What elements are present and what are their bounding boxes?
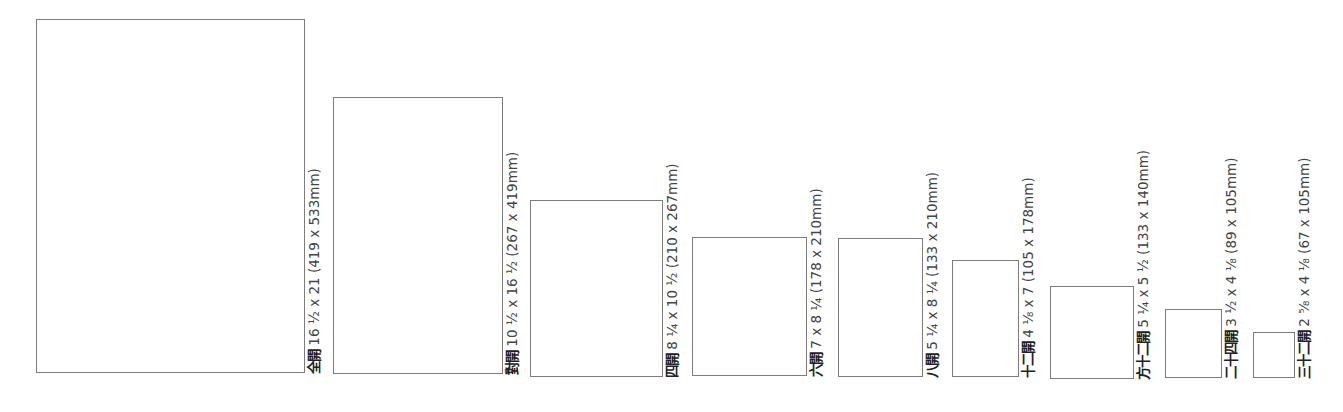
sheet-inches: 7 x 8 ¼ xyxy=(808,298,824,349)
sheet-mm: (133 x 140mm) xyxy=(1135,150,1151,255)
sheet-name: 對開 xyxy=(504,351,520,375)
sheet-inches: 2 ⅝ x 4 ⅛ xyxy=(1296,258,1312,327)
sheet-rect-fangshierkai xyxy=(1050,286,1134,379)
sheet-mm: (210 x 267mm) xyxy=(664,163,680,268)
sheet-name: 二十四開 xyxy=(1223,331,1239,379)
sheet-label-quankai: 全開 16 ½ x 21 (419 x 533mm) xyxy=(306,168,322,374)
sheet-mm: (105 x 178mm) xyxy=(1020,177,1036,282)
sheet-label-ershisikai: 二十四開 3 ½ x 4 ⅛ (89 x 105mm) xyxy=(1223,158,1239,379)
sheet-name: 方十二開 xyxy=(1135,332,1151,380)
sheet-rect-duikai xyxy=(333,97,503,374)
sheet-inches: 16 ½ x 21 xyxy=(306,277,322,345)
sheet-name: 八開 xyxy=(924,354,940,378)
sheet-label-duikai: 對開 10 ½ x 16 ½ (267 x 419mm) xyxy=(504,152,520,375)
sheet-inches: 8 ¼ x 10 ½ xyxy=(664,273,680,350)
sheet-mm: (67 x 105mm) xyxy=(1296,158,1312,254)
sheet-rect-ershisikai xyxy=(1165,309,1222,378)
sheet-mm: (267 x 419mm) xyxy=(504,152,520,257)
sheet-inches: 5 ¼ x 5 ½ xyxy=(1135,259,1151,328)
sheet-mm: (178 x 210mm) xyxy=(808,188,824,293)
sheet-inches: 5 ¼ x 8 ¼ xyxy=(924,281,940,350)
sheet-rect-quankai xyxy=(36,19,305,373)
sheet-label-bakai: 八開 5 ¼ x 8 ¼ (133 x 210mm) xyxy=(924,172,940,378)
sheet-label-shierkai: 十二開 4 ⅛ x 7 (105 x 178mm) xyxy=(1020,177,1036,378)
sheet-label-sikai: 四開 8 ¼ x 10 ½ (210 x 267mm) xyxy=(664,163,680,378)
sheet-rect-shierkai xyxy=(952,260,1019,377)
sheet-rect-bakai xyxy=(838,238,923,377)
sheet-inches: 4 ⅛ x 7 xyxy=(1020,287,1036,338)
sheet-label-sanshierkai: 三十二開 2 ⅝ x 4 ⅛ (67 x 105mm) xyxy=(1296,158,1312,379)
sheet-label-liukai: 六開 7 x 8 ¼ (178 x 210mm) xyxy=(808,188,824,377)
sheet-label-fangshierkai: 方十二開 5 ¼ x 5 ½ (133 x 140mm) xyxy=(1135,150,1151,380)
sheet-mm: (419 x 533mm) xyxy=(306,168,322,273)
sheet-inches: 3 ½ x 4 ⅛ xyxy=(1223,258,1239,327)
sheet-name: 三十二開 xyxy=(1296,331,1312,379)
sheet-rect-liukai xyxy=(692,237,807,376)
sheet-inches: 10 ½ x 16 ½ xyxy=(504,261,520,347)
sheet-mm: (89 x 105mm) xyxy=(1223,158,1239,254)
sheet-rect-sanshierkai xyxy=(1253,332,1295,378)
sheet-name: 十二開 xyxy=(1020,342,1036,378)
sheet-mm: (133 x 210mm) xyxy=(924,172,940,277)
sheet-rect-sikai xyxy=(530,200,663,377)
sheet-name: 六開 xyxy=(808,353,824,377)
sheet-name: 四開 xyxy=(664,354,680,378)
sheet-name: 全開 xyxy=(306,350,322,374)
